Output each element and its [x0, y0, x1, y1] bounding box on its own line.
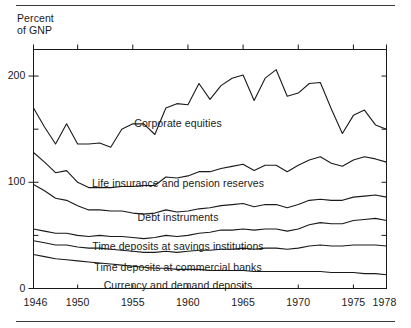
plot-frame	[34, 50, 387, 289]
chart-figure: Percentof GNP 01002001946195019551960196…	[0, 0, 411, 328]
series-inline-label: Debt instruments	[138, 211, 219, 223]
y-axis-tick-label: 200	[0, 69, 26, 81]
x-axis-tick-label: 1970	[278, 296, 318, 308]
series-line-corporate-equities	[34, 70, 387, 148]
series-inline-label: Time deposits at savings institutions	[92, 240, 263, 252]
series-inline-label: Life insurance and pension reserves	[92, 177, 264, 189]
series-inline-label: Time deposits at commercial banks	[94, 261, 261, 273]
x-axis-tick-label: 1946	[16, 296, 56, 308]
x-axis-tick-label: 1955	[113, 296, 153, 308]
series-inline-label: Corporate equities	[134, 117, 222, 129]
x-axis-tick-label: 1950	[58, 296, 98, 308]
x-axis-tick-label: 1965	[223, 296, 263, 308]
x-axis-tick-label: 1960	[168, 296, 208, 308]
y-axis-tick-label: 100	[0, 175, 26, 187]
x-axis-tick-label: 1978	[365, 296, 405, 308]
y-axis-tick-label: 0	[0, 282, 26, 294]
series-inline-label: Currency and demand deposits	[104, 279, 253, 291]
